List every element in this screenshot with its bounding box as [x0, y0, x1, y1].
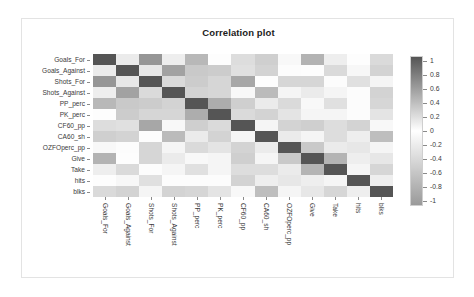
x-axis-tick-label: Goals_For: [101, 203, 108, 234]
heatmap-cell: [139, 65, 162, 76]
heatmap-cell: [231, 54, 254, 65]
y-axis-tick-label: hits: [22, 175, 90, 186]
heatmap-cell: [301, 54, 324, 65]
heatmap-cell: [185, 87, 208, 98]
heatmap-cell: [301, 164, 324, 175]
heatmap-cell: [93, 120, 116, 131]
heatmap-cell: [93, 164, 116, 175]
heatmap-cell: [347, 87, 370, 98]
heatmap-cell: [116, 87, 139, 98]
x-axis-tick-label: Goals_Against: [124, 203, 131, 246]
heatmap-cell: [278, 76, 301, 87]
heatmap-cell: [162, 65, 185, 76]
heatmap-cell: [162, 98, 185, 109]
heatmap-cell: [301, 175, 324, 186]
heatmap-cell: [116, 164, 139, 175]
tick-text: 0: [430, 128, 434, 135]
heatmap-cell: [255, 142, 278, 153]
x-axis-tick-slot: blks: [370, 197, 393, 275]
heatmap-cell: [93, 65, 116, 76]
x-axis-tick-label: CF60_pp: [239, 203, 246, 230]
heatmap-cell: [139, 186, 162, 197]
heatmap-cell: [116, 65, 139, 76]
heatmap-cell: [93, 175, 116, 186]
heatmap-cell: [231, 109, 254, 120]
heatmap-cell: [116, 76, 139, 87]
heatmap-cell: [116, 98, 139, 109]
tick-text: -0.4: [430, 156, 442, 163]
heatmap-cell: [301, 87, 324, 98]
heatmap-cell: [255, 65, 278, 76]
heatmap-cell: [162, 164, 185, 175]
heatmap-cell: [93, 87, 116, 98]
heatmap-cell: [324, 175, 347, 186]
heatmap-cell: [347, 65, 370, 76]
heatmap-cell: [162, 153, 185, 164]
heatmap-cell: [162, 175, 185, 186]
y-axis-tick-label: OZFOperc_pp: [22, 142, 90, 153]
heatmap-cell: [347, 164, 370, 175]
heatmap-cell: [208, 87, 231, 98]
heatmap-cell: [93, 76, 116, 87]
heatmap-cell: [208, 54, 231, 65]
heatmap-cell: [116, 153, 139, 164]
heatmap-cell: [185, 65, 208, 76]
heatmap-cell: [370, 109, 393, 120]
y-axis-tick-label: Shots_For: [22, 76, 90, 87]
heatmap-cell: [231, 142, 254, 153]
heatmap-cell: [185, 109, 208, 120]
heatmap-cell: [208, 142, 231, 153]
heatmap-cell: [93, 109, 116, 120]
heatmap-cell: [347, 153, 370, 164]
heatmap-cell: [255, 54, 278, 65]
heatmap-cell: [185, 131, 208, 142]
heatmap-cell: [116, 142, 139, 153]
heatmap-cell: [185, 164, 208, 175]
colorbar-legend: 10.80.60.40.20-0.2-0.4-0.6-0.8-1: [410, 56, 454, 206]
heatmap-grid: [93, 54, 393, 197]
tick-mark: [423, 61, 427, 62]
tick-mark: [423, 159, 427, 160]
heatmap-cell: [255, 186, 278, 197]
x-axis-tick-slot: Shots_For: [139, 197, 162, 275]
heatmap-cell: [278, 65, 301, 76]
x-axis-tick-slot: CF60_pp: [231, 197, 254, 275]
heatmap-cell: [139, 76, 162, 87]
x-axis-tick-label: Shots_For: [147, 203, 154, 233]
heatmap-cell: [116, 120, 139, 131]
heatmap-cell: [370, 87, 393, 98]
tick-text: -1: [430, 198, 436, 205]
x-axis-tick-slot: PP_perc: [185, 197, 208, 275]
y-axis-tick-label: Give: [22, 153, 90, 164]
x-axis-tick-label: blks: [378, 203, 385, 215]
x-axis-tick-label: Shots_Against: [170, 203, 177, 246]
heatmap-cell: [139, 109, 162, 120]
heatmap-cell: [139, 87, 162, 98]
heatmap-cell: [116, 175, 139, 186]
heatmap-cell: [347, 98, 370, 109]
tick-mark: [423, 201, 427, 202]
heatmap-cell: [185, 142, 208, 153]
heatmap-cell: [301, 98, 324, 109]
heatmap-cell: [93, 153, 116, 164]
y-axis-labels: Goals_ForGoals_AgainstShots_ForShots_Aga…: [22, 54, 90, 197]
heatmap-cell: [139, 175, 162, 186]
y-axis-tick-label: Shots_Against: [22, 87, 90, 98]
heatmap-cell: [347, 186, 370, 197]
tick-mark: [423, 187, 427, 188]
heatmap-cell: [347, 175, 370, 186]
y-axis-tick-label: Goals_Against: [22, 65, 90, 76]
heatmap-cell: [185, 153, 208, 164]
heatmap-cell: [208, 120, 231, 131]
heatmap-cell: [93, 186, 116, 197]
heatmap-cell: [93, 98, 116, 109]
heatmap-cell: [301, 109, 324, 120]
x-axis-tick-label: Give: [309, 203, 316, 217]
heatmap-cell: [370, 120, 393, 131]
tick-text: -0.6: [430, 170, 442, 177]
y-axis-tick-label: CA60_sh: [22, 131, 90, 142]
heatmap-cell: [278, 164, 301, 175]
heatmap-cell: [231, 175, 254, 186]
heatmap-cell: [370, 131, 393, 142]
heatmap-cell: [162, 87, 185, 98]
